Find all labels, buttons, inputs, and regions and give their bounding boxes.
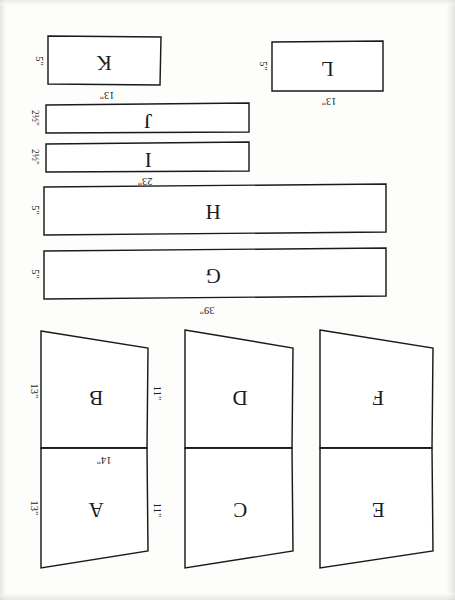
piece-I-letter: I <box>144 148 152 172</box>
piece-L: L 5" 13" <box>258 41 383 107</box>
pattern-layout-diagram: K 5" 13" L 5" 13" J 2½" I 2½" 23" H <box>0 0 455 600</box>
piece-A-right-label: 11" <box>152 503 163 517</box>
piece-C-letter: C <box>233 498 248 522</box>
piece-A-left-label: 13" <box>29 501 40 516</box>
piece-H: H 5" <box>30 184 386 235</box>
piece-J-height-label: 2½" <box>30 110 40 126</box>
piece-G: G 5" 39" <box>30 248 386 316</box>
piece-B-right-label: 11" <box>152 386 163 400</box>
piece-H-height-label: 5" <box>30 205 41 215</box>
piece-J-letter: J <box>144 109 153 133</box>
piece-K-width-label: 13" <box>100 90 115 101</box>
piece-G-width-label: 39" <box>200 305 215 316</box>
piece-J: J 2½" <box>30 103 249 133</box>
piece-K-letter: K <box>96 51 112 75</box>
piece-L-letter: L <box>320 57 333 81</box>
piece-L-width-label: 13" <box>322 96 337 107</box>
piece-G-letter: G <box>205 264 221 288</box>
panel-group-EF: F E <box>320 330 433 568</box>
piece-F-letter: F <box>372 386 384 410</box>
piece-A-letter: A <box>88 498 104 522</box>
piece-B-left-label: 13" <box>29 384 40 399</box>
piece-E-letter: E <box>371 498 384 522</box>
panel-AB-divider-label: 14" <box>97 455 112 466</box>
piece-H-letter: H <box>205 200 221 224</box>
piece-L-height-label: 5" <box>258 61 269 71</box>
piece-G-height-label: 5" <box>30 269 41 279</box>
panel-group-AB: B A 13" 11" 13" 11" 14" <box>29 331 163 568</box>
panel-group-CD: D C <box>185 330 293 568</box>
piece-I-height-label: 2½" <box>30 149 40 165</box>
piece-K: K 5" 13" <box>34 36 161 101</box>
piece-D-letter: D <box>232 386 248 410</box>
drawing-sheet: K 5" 13" L 5" 13" J 2½" I 2½" 23" H <box>0 0 455 600</box>
piece-I-width-label: 23" <box>138 176 153 187</box>
piece-B-letter: B <box>89 386 104 410</box>
piece-K-height-label: 5" <box>34 56 45 66</box>
piece-I: I 2½" 23" <box>30 142 249 187</box>
